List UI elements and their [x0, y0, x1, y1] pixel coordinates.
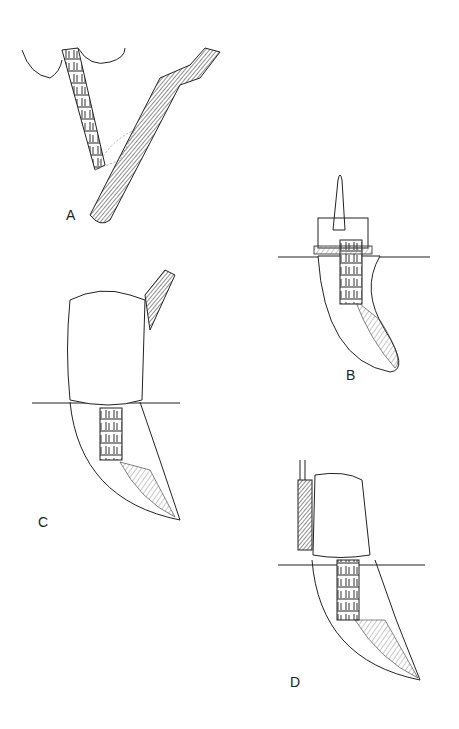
panel-label-d: D	[290, 675, 300, 689]
panel-c-drawing	[32, 270, 180, 520]
panel-a-drawing	[22, 48, 220, 223]
panel-label-c: C	[38, 515, 48, 529]
illustration-canvas	[0, 0, 459, 729]
panel-label-b: B	[346, 368, 355, 382]
panel-d-drawing	[278, 460, 425, 680]
panel-label-a: A	[66, 208, 75, 222]
panel-b-drawing	[278, 175, 430, 372]
